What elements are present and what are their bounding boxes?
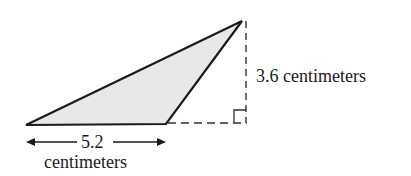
arrowhead-right-icon (157, 138, 166, 146)
base-unit-label: centimeters (44, 153, 127, 171)
triangle-figure (0, 0, 411, 176)
right-angle-marker-icon (234, 110, 246, 123)
height-label: 3.6 centimeters (256, 67, 366, 85)
base-value-label: 5.2 (79, 133, 106, 151)
arrowhead-left-icon (26, 138, 35, 146)
triangle-shape (26, 21, 242, 125)
triangle-diagram: 3.6 centimeters 5.2 centimeters (0, 0, 411, 176)
